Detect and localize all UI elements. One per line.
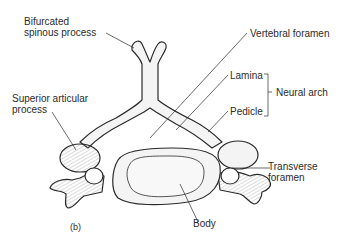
label-lamina: Lamina (230, 70, 263, 81)
label-transverse-foramen: Transverse foramen (268, 161, 318, 183)
panel-label: (b) (70, 222, 81, 233)
label-pedicle: Pedicle (230, 106, 263, 117)
label-neural-arch: Neural arch (276, 87, 328, 98)
label-bifurcated-spinous-process: Bifurcated spinous process (24, 16, 96, 38)
right-transverse-foramen (221, 168, 239, 184)
vertebral-body-inner (127, 156, 204, 197)
vertebra-diagram: Bifurcated spinous process Vertebral for… (0, 0, 352, 249)
left-transverse-foramen (85, 168, 103, 184)
spinous-process (80, 41, 222, 148)
right-articular-facet (218, 141, 258, 169)
label-body: Body (193, 218, 216, 229)
label-superior-articular-process: Superior articular process (12, 93, 88, 115)
label-vertebral-foramen: Vertebral foramen (250, 28, 330, 39)
